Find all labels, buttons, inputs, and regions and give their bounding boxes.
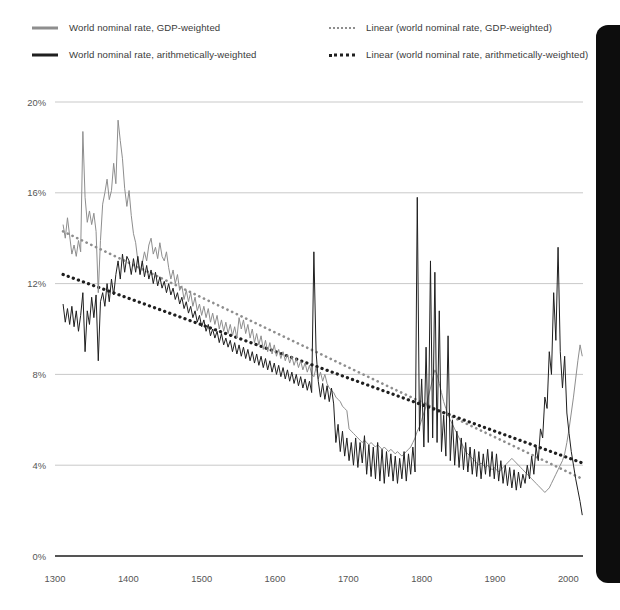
chart-gridlines [55,102,583,465]
x-axis-tick-label: 1900 [485,573,506,584]
x-axis-tick-label: 1700 [338,573,359,584]
chart-series-line [63,197,582,515]
x-axis-tick-label: 1600 [265,573,286,584]
y-axis-tick-label: 8% [32,369,46,380]
chart-series-line [63,120,582,492]
chart-x-axis-labels: 13001400150016001700180019002000 [45,573,579,584]
chart-trendline [63,275,582,463]
x-axis-tick-label: 1300 [45,573,66,584]
chart-series-lines [63,120,582,515]
x-axis-tick-label: 1400 [118,573,139,584]
y-axis-tick-label: 16% [27,187,46,198]
y-axis-tick-label: 12% [27,278,46,289]
y-axis-tick-label: 4% [32,460,46,471]
y-axis-tick-label: 0% [32,551,46,562]
x-axis-tick-label: 1800 [411,573,432,584]
x-axis-tick-label: 1500 [191,573,212,584]
chart-y-axis-labels: 0%4%8%12%16%20% [27,97,46,562]
x-axis-tick-label: 2000 [558,573,579,584]
right-side-panel[interactable] [596,25,620,583]
y-axis-tick-label: 20% [27,97,46,108]
